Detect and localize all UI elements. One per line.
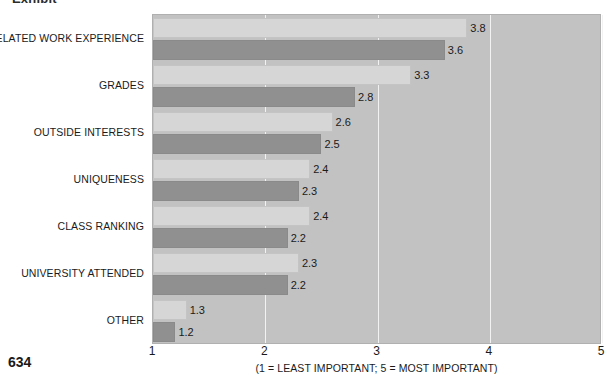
x-tick-label: 4 bbox=[485, 345, 492, 357]
bar-mba: 3.6 bbox=[153, 40, 445, 60]
category-label: OTHER bbox=[107, 314, 144, 326]
bar-value-label: 2.5 bbox=[324, 138, 339, 149]
category-label: CLASS RANKING bbox=[58, 220, 145, 232]
bar-rows: 3.83.63.32.82.62.52.42.32.42.22.32.21.31… bbox=[153, 15, 600, 343]
bar-value-label: 2.4 bbox=[313, 211, 328, 222]
category-label: UNIVERSITY ATTENDED bbox=[21, 267, 144, 279]
x-axis-caption: (1 = LEAST IMPORTANT; 5 = MOST IMPORTANT… bbox=[152, 362, 601, 374]
bar-row: 2.42.2 bbox=[153, 204, 600, 251]
x-tick-label: 5 bbox=[598, 345, 605, 357]
bar-row: 2.42.3 bbox=[153, 156, 600, 203]
x-tick-label: 3 bbox=[373, 345, 380, 357]
bar-value-label: 2.3 bbox=[302, 185, 317, 196]
bar-value-label: 3.6 bbox=[448, 44, 463, 55]
bar-value-label: 2.8 bbox=[358, 91, 373, 102]
bar-bba: 1.3 bbox=[153, 300, 187, 320]
bar-mba: 2.3 bbox=[153, 181, 299, 201]
bar-mba: 1.2 bbox=[153, 322, 175, 342]
bar-value-label: 2.6 bbox=[336, 116, 351, 127]
bar-value-label: 1.2 bbox=[178, 327, 193, 338]
category-label: GRADES bbox=[99, 79, 144, 91]
bar-bba: 3.3 bbox=[153, 65, 411, 85]
bar-mba: 2.5 bbox=[153, 134, 321, 154]
bar-row: 1.31.2 bbox=[153, 298, 600, 345]
bar-mba: 2.2 bbox=[153, 275, 288, 295]
bar-value-label: 3.3 bbox=[414, 69, 429, 80]
bar-value-label: 2.3 bbox=[302, 258, 317, 269]
bar-mba: 2.8 bbox=[153, 87, 355, 107]
bar-value-label: 2.2 bbox=[291, 280, 306, 291]
bar-row: 2.32.2 bbox=[153, 251, 600, 298]
bar-value-label: 2.4 bbox=[313, 163, 328, 174]
bar-bba: 2.4 bbox=[153, 206, 310, 226]
bar-row: 3.83.6 bbox=[153, 15, 600, 62]
x-axis-ticks: 12345 bbox=[152, 345, 601, 361]
bar-row: 3.32.8 bbox=[153, 62, 600, 109]
bar-bba: 2.6 bbox=[153, 112, 333, 132]
bar-mba: 2.2 bbox=[153, 228, 288, 248]
clipped-heading: Exhibit bbox=[12, 0, 192, 3]
bar-value-label: 2.2 bbox=[291, 233, 306, 244]
bar-value-label: 3.8 bbox=[470, 22, 485, 33]
category-label: RELATED WORK EXPERIENCE bbox=[0, 32, 144, 44]
gridline-5 bbox=[602, 15, 603, 343]
bar-bba: 2.4 bbox=[153, 159, 310, 179]
category-label: UNIQUENESS bbox=[74, 173, 144, 185]
bar-bba: 2.3 bbox=[153, 253, 299, 273]
x-tick-label: 1 bbox=[149, 345, 156, 357]
category-axis-labels: RELATED WORK EXPERIENCEGRADESOUTSIDE INT… bbox=[0, 14, 148, 344]
bar-row: 2.62.5 bbox=[153, 109, 600, 156]
bar-value-label: 1.3 bbox=[190, 305, 205, 316]
page-number: 634 bbox=[8, 354, 31, 370]
x-tick-label: 2 bbox=[261, 345, 268, 357]
category-label: OUTSIDE INTERESTS bbox=[34, 126, 144, 138]
chart-plot-area: 3.83.63.32.82.62.52.42.32.42.22.32.21.31… bbox=[152, 14, 601, 344]
bar-bba: 3.8 bbox=[153, 18, 467, 38]
